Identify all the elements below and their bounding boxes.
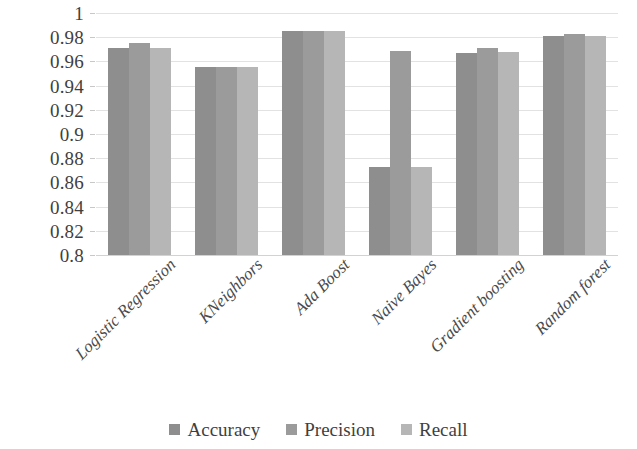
x-axis-tick-label-wrapper: KNeighbors [194,255,266,327]
x-axis-category-labels: Logistic RegressionKNeighborsAda BoostNa… [96,255,618,405]
y-axis-tick-label: 0.8 [0,246,84,265]
legend-swatch-icon [401,424,412,435]
legend-swatch-icon [169,424,180,435]
gridline [96,37,618,38]
y-axis-tick-mark [90,86,95,87]
x-axis-tick-label: Naive Bayes [367,255,439,329]
legend-label: Recall [419,420,468,439]
bar-precision [390,51,411,255]
x-axis-tick-label: Ada Boost [290,255,352,319]
y-axis-tick-label: 0.92 [0,101,84,120]
y-axis-tick-mark [90,13,95,14]
y-axis-tick-mark [90,110,95,111]
bar-recall [585,36,606,255]
legend-label: Precision [304,420,375,439]
gridline [96,110,618,111]
x-axis-tick-label: Gradient boosting [426,255,527,357]
y-axis-tick-mark [90,37,95,38]
y-axis-tick-label: 0.86 [0,173,84,192]
bar-accuracy [108,48,129,255]
bar-recall [237,67,258,255]
y-axis: 10.980.960.940.920.90.880.860.840.820.8 [0,0,90,268]
y-axis-tick-label: 0.98 [0,28,84,47]
x-axis-tick-label-wrapper: Naive Bayes [367,255,440,328]
y-axis-tick-label: 0.9 [0,125,84,144]
bar-group [108,13,171,255]
legend-item: Accuracy [169,420,260,439]
y-axis-tick-label: 0.96 [0,52,84,71]
bar-recall [324,31,345,255]
gridline [96,207,618,208]
gridline [96,182,618,183]
bar-group [456,13,519,255]
y-axis-tick-mark [90,207,95,208]
x-axis-tick-label-wrapper: Ada Boost [290,255,353,318]
x-axis-tick-label: KNeighbors [195,255,266,327]
bar-accuracy [369,167,390,255]
bar-accuracy [456,53,477,255]
bar-accuracy [195,67,216,255]
legend-swatch-icon [286,424,297,435]
y-axis-tick-mark [90,255,95,256]
bar-precision [129,43,150,255]
bar-group [195,13,258,255]
bar-recall [411,167,432,255]
y-axis-tick-mark [90,158,95,159]
bar-precision [477,48,498,255]
bar-recall [150,48,171,255]
y-axis-tick-mark [90,134,95,135]
y-axis-tick-mark [90,231,95,232]
gridline [96,158,618,159]
bar-precision [564,34,585,255]
bar-precision [303,31,324,255]
legend-item: Precision [286,420,375,439]
y-axis-tick-label: 0.82 [0,222,84,241]
bar-accuracy [282,31,303,255]
x-axis-tick-label-wrapper: Random forest [530,255,613,338]
bar-group [369,13,432,255]
y-axis-tick-label: 0.94 [0,77,84,96]
plot-area [96,13,618,255]
x-axis-tick-label: Random forest [531,255,614,339]
bar-accuracy [543,36,564,255]
bar-group [282,13,345,255]
bar-chart: 10.980.960.940.920.90.880.860.840.820.8 … [0,0,637,449]
x-axis-tick-label-wrapper: Gradient boosting [426,255,527,356]
legend-item: Recall [401,420,468,439]
chart-legend: AccuracyPrecisionRecall [0,420,637,439]
y-axis-tick-mark [90,182,95,183]
y-axis-tick-label: 0.84 [0,198,84,217]
y-axis-tick-label: 1 [0,4,84,23]
y-axis-tick-mark [90,61,95,62]
gridline [96,231,618,232]
legend-label: Accuracy [187,420,260,439]
gridline [96,134,618,135]
bar-precision [216,67,237,255]
gridline [96,86,618,87]
x-axis-tick-label: Logistic Regression [71,255,178,364]
y-axis-tick-label: 0.88 [0,149,84,168]
x-axis-tick-label-wrapper: Logistic Regression [71,255,179,363]
bar-recall [498,52,519,255]
gridline [96,13,618,14]
gridline [96,61,618,62]
bar-group [543,13,606,255]
